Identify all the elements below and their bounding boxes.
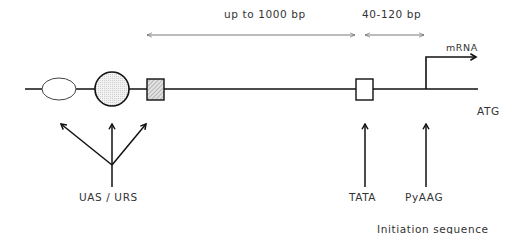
circle-element (95, 72, 129, 106)
ellipse-element (42, 78, 76, 100)
span-short-label: 40-120 bp (362, 8, 421, 20)
tata-label: TATA (349, 191, 376, 203)
uas-arrow-left (61, 124, 112, 165)
span-long-label: up to 1000 bp (224, 8, 306, 20)
mrna-arrow (426, 57, 476, 89)
tata-box (356, 79, 373, 100)
initiation-sequence-label: Initiation sequence (377, 223, 489, 234)
hatched-box (147, 79, 164, 100)
uas-arrow-right (112, 124, 146, 165)
mrna-label: mRNA (446, 42, 478, 53)
uas-urs-label: UAS / URS (79, 191, 138, 203)
pyaag-label: PyAAG (405, 191, 443, 203)
atg-label: ATG (477, 105, 500, 117)
